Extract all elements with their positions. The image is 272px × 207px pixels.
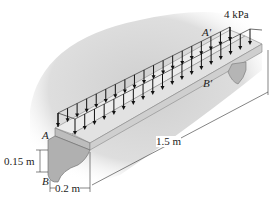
point-b-label: B — [42, 176, 49, 187]
beam-drawing — [0, 0, 272, 207]
point-a-prime-label: A' — [202, 27, 211, 38]
load-label: 4 kPa — [224, 9, 249, 20]
point-a-label: A — [42, 130, 49, 141]
length-dimension-label: 1.5 m — [156, 136, 181, 147]
point-b-prime-label: B' — [203, 78, 212, 89]
height-dimension-label: 0.15 m — [4, 156, 35, 167]
width-dimension-label: 0.2 m — [55, 183, 80, 194]
beam-diagram: 4 kPa A' A B' B 0.15 m 0.2 m 1.5 m — [0, 0, 272, 207]
